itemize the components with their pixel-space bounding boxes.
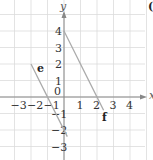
svg-text:3: 3 bbox=[110, 99, 117, 112]
origin-label: 0 bbox=[54, 85, 61, 98]
y-axis-label: y bbox=[59, 0, 67, 13]
svg-text:2: 2 bbox=[55, 58, 62, 71]
plotted-lines bbox=[31, 31, 104, 137]
line-f bbox=[64, 31, 104, 110]
line-e-label: e bbox=[37, 62, 44, 75]
svg-text:4: 4 bbox=[55, 25, 62, 38]
svg-text:−3: −3 bbox=[51, 141, 67, 154]
coordinate-plane: −3−2−112344321−1−2−3 x y 0 e f ( bbox=[0, 0, 153, 160]
axes bbox=[0, 11, 147, 160]
svg-text:3: 3 bbox=[55, 42, 62, 55]
partial-label: ( bbox=[148, 0, 153, 13]
line-f-label: f bbox=[102, 111, 108, 124]
grid bbox=[0, 0, 147, 160]
x-axis-label: x bbox=[149, 89, 153, 102]
tick-labels: −3−2−112344321−1−2−3 bbox=[11, 25, 134, 154]
x-axis-arrow-icon bbox=[140, 95, 147, 100]
svg-text:−2: −2 bbox=[27, 99, 43, 112]
svg-text:1: 1 bbox=[77, 99, 84, 112]
svg-text:−3: −3 bbox=[11, 99, 27, 112]
svg-text:4: 4 bbox=[126, 99, 133, 112]
